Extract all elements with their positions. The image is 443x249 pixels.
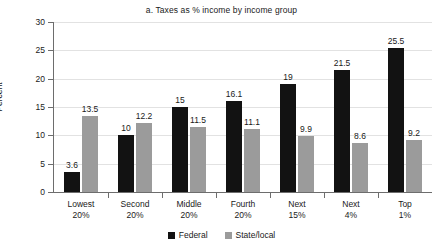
category-label-line1: Next bbox=[324, 199, 378, 210]
category-label-line2: 20% bbox=[162, 210, 216, 221]
bar-value-label: 13.5 bbox=[75, 105, 105, 114]
category-label-line2: 20% bbox=[54, 210, 108, 221]
category-label-line1: Second bbox=[108, 199, 162, 210]
bar-value-label: 25.5 bbox=[381, 37, 411, 46]
bar-federal bbox=[64, 172, 80, 192]
legend-label: State/local bbox=[236, 231, 276, 240]
gridline bbox=[54, 79, 432, 80]
bar-value-label: 9.2 bbox=[399, 129, 429, 138]
x-axis-category-label: Fourth20% bbox=[216, 199, 270, 221]
bar-state-local bbox=[244, 129, 260, 192]
category-label-line1: Lowest bbox=[54, 199, 108, 210]
bar-value-label: 19 bbox=[273, 73, 303, 82]
category-label-line2: 4% bbox=[324, 210, 378, 221]
chart-container: a. Taxes as % income by income group Per… bbox=[0, 0, 443, 249]
x-axis-category-label: Middle20% bbox=[162, 199, 216, 221]
x-axis-tick bbox=[324, 193, 325, 198]
bar-state-local bbox=[352, 143, 368, 192]
y-axis-title: Percent bbox=[0, 82, 4, 111]
x-axis-category-label: Lowest20% bbox=[54, 199, 108, 221]
bar-value-label: 9.9 bbox=[291, 125, 321, 134]
x-axis-tick bbox=[162, 193, 163, 198]
x-axis-category-label: Next15% bbox=[270, 199, 324, 221]
category-label-line2: 1% bbox=[378, 210, 432, 221]
bar-value-label: 21.5 bbox=[327, 59, 357, 68]
x-axis-tick bbox=[108, 193, 109, 198]
y-axis-tick-label: 30 bbox=[5, 18, 45, 27]
bar-value-label: 11.5 bbox=[183, 116, 213, 125]
y-axis-tick-label: 25 bbox=[5, 46, 45, 55]
y-axis-tick-label: 0 bbox=[5, 188, 45, 197]
bar-value-label: 16.1 bbox=[219, 90, 249, 99]
x-axis-category-label: Top1% bbox=[378, 199, 432, 221]
bar-state-local bbox=[136, 123, 152, 192]
gridline bbox=[54, 135, 432, 136]
x-axis-tick bbox=[270, 193, 271, 198]
legend-item-state-local[interactable]: State/local bbox=[225, 231, 276, 240]
bar-federal bbox=[334, 70, 350, 192]
x-axis-category-label: Second20% bbox=[108, 199, 162, 221]
bar-state-local bbox=[82, 116, 98, 193]
y-axis-tick-label: 20 bbox=[5, 75, 45, 84]
bar-value-label: 11.1 bbox=[237, 118, 267, 127]
category-label-line1: Top bbox=[378, 199, 432, 210]
x-axis-tick bbox=[378, 193, 379, 198]
category-label-line1: Middle bbox=[162, 199, 216, 210]
plot-area: 3.613.51012.21511.516.111.1199.921.58.62… bbox=[54, 22, 432, 192]
gridline bbox=[54, 22, 432, 23]
category-label-line2: 20% bbox=[216, 210, 270, 221]
x-axis-tick bbox=[216, 193, 217, 198]
legend-swatch-icon bbox=[225, 232, 232, 239]
y-axis-tick-label: 10 bbox=[5, 131, 45, 140]
legend-label: Federal bbox=[179, 231, 208, 240]
legend-swatch-icon bbox=[168, 232, 175, 239]
bar-federal bbox=[280, 84, 296, 192]
bar-federal bbox=[388, 48, 404, 193]
x-axis-category-label: Next4% bbox=[324, 199, 378, 221]
bar-federal bbox=[226, 101, 242, 192]
y-axis-tick-label: 5 bbox=[5, 160, 45, 169]
bar-federal bbox=[118, 135, 134, 192]
gridline bbox=[54, 107, 432, 108]
category-label-line2: 20% bbox=[108, 210, 162, 221]
bar-state-local bbox=[190, 127, 206, 192]
y-axis-tick-label: 15 bbox=[5, 103, 45, 112]
chart-legend: FederalState/local bbox=[0, 231, 443, 240]
bar-value-label: 15 bbox=[165, 96, 195, 105]
category-label-line2: 15% bbox=[270, 210, 324, 221]
bar-value-label: 8.6 bbox=[345, 132, 375, 141]
x-axis-line bbox=[54, 192, 432, 193]
gridline bbox=[54, 164, 432, 165]
category-label-line1: Fourth bbox=[216, 199, 270, 210]
bar-state-local bbox=[298, 136, 314, 192]
chart-title: a. Taxes as % income by income group bbox=[0, 5, 443, 15]
category-label-line1: Next bbox=[270, 199, 324, 210]
legend-item-federal[interactable]: Federal bbox=[168, 231, 208, 240]
bar-value-label: 12.2 bbox=[129, 112, 159, 121]
bar-state-local bbox=[406, 140, 422, 192]
gridline bbox=[54, 50, 432, 51]
